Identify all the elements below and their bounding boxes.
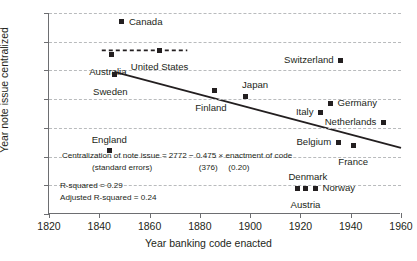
data-point-marker — [328, 101, 333, 106]
x-axis-tick — [49, 213, 50, 218]
x-axis-tick — [150, 213, 151, 218]
data-point-label: Sweden — [93, 87, 128, 97]
data-point-marker — [313, 186, 318, 191]
gridline-y — [49, 13, 401, 14]
y-axis-tick — [44, 128, 49, 129]
data-point-marker — [112, 72, 117, 77]
data-point-label: Austria — [291, 200, 321, 210]
data-point-label: Germany — [338, 99, 377, 109]
data-point-marker — [109, 52, 114, 57]
standard-errors-label: (standard errors) — [92, 163, 152, 172]
adjusted-r-squared-value: Adjusted R-squared = 0.24 — [60, 192, 292, 204]
x-axis-tick — [99, 213, 100, 218]
y-axis-title: Year note issue centralized — [0, 0, 10, 190]
data-point-label: Italy — [296, 107, 314, 117]
data-point-marker — [212, 88, 217, 93]
data-point-marker — [243, 94, 248, 99]
y-axis-tick — [44, 42, 49, 43]
r-squared-block: R-squared = 0.29 Adjusted R-squared = 0.… — [52, 180, 292, 203]
data-point-marker — [157, 48, 162, 53]
regression-equation: Centralization of note issue = 2772 − 0.… — [52, 150, 292, 162]
se-intercept: (376) — [199, 163, 218, 172]
data-point-label: Australia — [89, 67, 126, 77]
data-point-marker — [119, 19, 124, 24]
data-point-label: Japan — [242, 81, 268, 91]
x-axis-tick — [200, 213, 201, 218]
data-point-label: Denmark — [288, 173, 327, 183]
gridline-y — [49, 42, 401, 43]
x-axis-tick — [250, 213, 251, 218]
data-point-label: England — [92, 135, 127, 145]
se-slope: (0.20) — [228, 163, 249, 172]
standard-errors-row: (standard errors) (376) (0.20) — [52, 162, 292, 174]
data-point-marker — [381, 120, 386, 125]
x-axis-tick — [401, 213, 402, 218]
data-point-marker — [338, 58, 343, 63]
y-axis-tick — [44, 13, 49, 14]
data-point-marker — [336, 140, 341, 145]
data-point-label: Finland — [195, 103, 226, 113]
data-point-marker — [318, 110, 323, 115]
data-point-marker — [303, 186, 308, 191]
y-axis-tick — [44, 99, 49, 100]
data-point-label: France — [338, 157, 368, 167]
y-axis-tick — [44, 157, 49, 158]
data-point-label: Norway — [323, 183, 356, 193]
x-axis-tick — [300, 213, 301, 218]
x-axis-tick — [351, 213, 352, 218]
data-point-label: Switzerland — [284, 56, 334, 66]
regression-annotation: Centralization of note issue = 2772 − 0.… — [52, 150, 292, 204]
scatter-chart: Year note issue centralized Year banking… — [0, 0, 417, 261]
x-axis-tick-label: 1960 — [361, 220, 417, 232]
data-point-label: Netherlands — [325, 117, 377, 127]
gridline-y — [49, 128, 401, 129]
x-axis-title: Year banking code enacted — [0, 237, 417, 249]
data-point-marker — [295, 186, 300, 191]
data-point-marker — [351, 143, 356, 148]
y-axis-tick — [44, 70, 49, 71]
data-point-label: Belgium — [296, 137, 331, 147]
r-squared-value: R-squared = 0.29 — [60, 180, 292, 192]
data-point-label: United States — [131, 62, 189, 72]
y-axis-tick — [44, 185, 49, 186]
data-point-label: Canada — [129, 17, 163, 27]
